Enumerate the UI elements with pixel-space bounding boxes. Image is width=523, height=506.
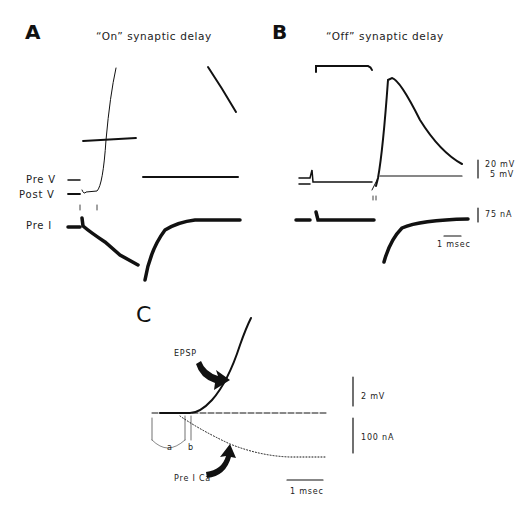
c-epsp-trace <box>160 318 251 413</box>
a-prev-step <box>83 138 136 141</box>
a-prei-recovery <box>145 220 240 280</box>
b-prei-recovery <box>384 219 468 262</box>
c-preica-trace <box>180 416 326 457</box>
preica-arrow-icon <box>206 444 236 478</box>
epsp-arrow-icon <box>196 361 230 390</box>
b-prev-step <box>316 66 372 72</box>
figure-traces <box>0 0 523 506</box>
a-postv-spike <box>82 68 116 193</box>
a-postv-decay <box>208 67 236 112</box>
b-prei-trace <box>316 212 374 220</box>
a-prei-trace <box>82 218 138 265</box>
b-postv-epsp <box>376 78 462 186</box>
